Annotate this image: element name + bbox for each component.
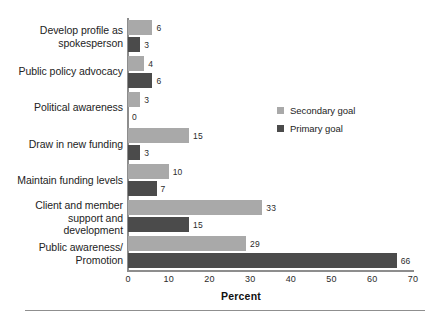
category-label-line: Client and member	[5, 199, 123, 212]
bar-group: 30	[128, 92, 413, 128]
bar-group: 46	[128, 56, 413, 92]
bar-track: 6	[128, 73, 413, 88]
bar-value-label: 3	[144, 94, 149, 104]
bar-primary-goal	[128, 217, 189, 232]
bar-secondary-goal	[128, 56, 144, 71]
bar-track: 0	[128, 109, 413, 124]
category-label-line: Develop profile as	[5, 24, 123, 37]
bar-value-label: 3	[144, 39, 149, 49]
x-axis-tick-label: 50	[326, 274, 336, 284]
bar-value-label: 10	[173, 166, 183, 176]
bar-value-label: 29	[250, 238, 260, 248]
bar-value-label: 3	[144, 147, 149, 157]
category-label-line: development	[5, 224, 123, 237]
x-axis-tick-label: 40	[286, 274, 296, 284]
bar-secondary-goal	[128, 236, 246, 251]
bar-chart: 63463015310733152966 Develop profile ass…	[0, 0, 444, 321]
bar-value-label: 7	[161, 183, 166, 193]
category-label-line: Political awareness	[5, 101, 123, 114]
bar-group: 107	[128, 164, 413, 200]
legend-swatch-primary-goal-icon	[277, 125, 284, 132]
bar-track: 15	[128, 128, 413, 143]
bar-value-label: 0	[132, 111, 137, 121]
legend-item-primary-goal: Primary goal	[277, 121, 355, 135]
bar-secondary-goal	[128, 200, 262, 215]
bar-value-label: 66	[401, 255, 411, 265]
category-label: Draw in new funding	[5, 138, 123, 151]
category-label: Political awareness	[5, 101, 123, 114]
bar-secondary-goal	[128, 128, 189, 143]
x-axis-tick-label: 20	[204, 274, 214, 284]
bar-track: 66	[128, 253, 413, 268]
bar-track: 6	[128, 20, 413, 35]
bar-track: 10	[128, 164, 413, 179]
bar-primary-goal	[128, 73, 152, 88]
bar-group: 153	[128, 128, 413, 164]
category-label-line: Promotion	[5, 254, 123, 267]
legend-swatch-secondary-goal-icon	[277, 107, 284, 114]
bar-secondary-goal	[128, 164, 169, 179]
bar-track: 4	[128, 56, 413, 71]
bar-primary-goal	[128, 145, 140, 160]
bar-track: 3	[128, 92, 413, 107]
bar-value-label: 6	[156, 75, 161, 85]
x-axis-tick-label: 0	[125, 274, 130, 284]
bar-secondary-goal	[128, 20, 152, 35]
x-axis-title-text: Percent	[221, 290, 261, 302]
x-axis-tick-label: 60	[367, 274, 377, 284]
category-label: Develop profile asspokesperson	[5, 24, 123, 49]
bar-value-label: 15	[193, 130, 203, 140]
category-label: Public awareness/Promotion	[5, 241, 123, 266]
bar-value-label: 6	[156, 22, 161, 32]
bar-group: 2966	[128, 236, 413, 272]
bar-track: 7	[128, 181, 413, 196]
footer-divider	[25, 310, 425, 311]
bar-primary-goal	[128, 37, 140, 52]
category-label-line: spokesperson	[5, 37, 123, 50]
bar-primary-goal	[128, 181, 157, 196]
category-label-line: Public awareness/	[5, 241, 123, 254]
chart-legend: Secondary goal Primary goal	[277, 103, 355, 139]
legend-item-secondary-goal: Secondary goal	[277, 103, 355, 117]
bar-value-label: 4	[148, 58, 153, 68]
x-axis-title: Percent	[0, 290, 444, 302]
x-axis-tick-label: 10	[163, 274, 173, 284]
plot-area: 63463015310733152966	[128, 18, 413, 270]
bar-track: 29	[128, 236, 413, 251]
bar-track: 3	[128, 37, 413, 52]
legend-label-primary-goal: Primary goal	[290, 123, 343, 134]
legend-label-secondary-goal: Secondary goal	[290, 105, 355, 116]
category-label-line: Maintain funding levels	[5, 174, 123, 187]
bar-value-label: 15	[193, 219, 203, 229]
bar-track: 33	[128, 200, 413, 215]
category-label-line: Public policy advocacy	[5, 65, 123, 78]
category-label: Public policy advocacy	[5, 65, 123, 78]
x-axis-tick-label: 30	[245, 274, 255, 284]
bar-secondary-goal	[128, 92, 140, 107]
bar-primary-goal	[128, 253, 397, 268]
category-label-line: Draw in new funding	[5, 138, 123, 151]
x-axis-tick-label: 70	[408, 274, 418, 284]
bar-group: 63	[128, 20, 413, 56]
bar-track: 15	[128, 217, 413, 232]
category-label: Client and membersupport anddevelopment	[5, 199, 123, 237]
bar-group: 3315	[128, 200, 413, 236]
category-label: Maintain funding levels	[5, 174, 123, 187]
category-label-line: support and	[5, 212, 123, 225]
bar-value-label: 33	[266, 202, 276, 212]
bar-track: 3	[128, 145, 413, 160]
